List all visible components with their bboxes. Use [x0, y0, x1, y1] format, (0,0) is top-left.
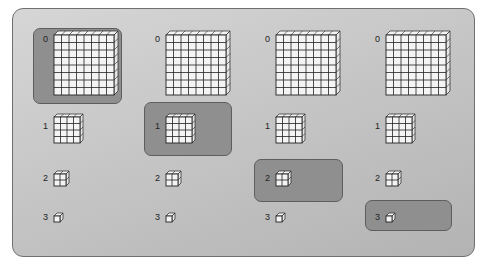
mipmap-cube-col3-level1	[385, 113, 416, 148]
level-label: 1	[43, 121, 48, 131]
mipmap-cube-col2-level0	[275, 30, 341, 100]
mipmap-cube-col1-level2	[165, 170, 182, 191]
mipmap-cube-col0-level3	[53, 209, 64, 227]
mipmap-cube-col0-level1	[53, 113, 84, 148]
mipmap-cube-col1-level0	[165, 30, 231, 100]
level-label: 1	[155, 121, 160, 131]
level-label: 2	[375, 173, 380, 183]
mipmap-cube-col3-level3	[385, 209, 396, 227]
level-label: 2	[265, 173, 270, 183]
level-label: 3	[43, 212, 48, 222]
level-label: 0	[375, 34, 380, 44]
level-label: 0	[265, 34, 270, 44]
mipmap-cube-col2-level3	[275, 209, 286, 227]
mipmap-cube-col2-level1	[275, 113, 306, 148]
level-label: 2	[155, 173, 160, 183]
mipmap-cube-col0-level0	[53, 30, 119, 100]
level-label: 2	[43, 173, 48, 183]
mipmap-cube-col1-level3	[165, 209, 176, 227]
mipmap-cube-col1-level1	[165, 113, 196, 148]
level-label: 3	[155, 212, 160, 222]
level-label: 3	[375, 212, 380, 222]
level-label: 1	[375, 121, 380, 131]
level-label: 1	[265, 121, 270, 131]
mipmap-cube-col3-level2	[385, 170, 402, 191]
mipmap-cube-col3-level0	[385, 30, 451, 100]
level-label: 0	[43, 34, 48, 44]
level-label: 0	[155, 34, 160, 44]
mipmap-cube-col2-level2	[275, 170, 292, 191]
level-label: 3	[265, 212, 270, 222]
mipmap-cube-col0-level2	[53, 170, 70, 191]
